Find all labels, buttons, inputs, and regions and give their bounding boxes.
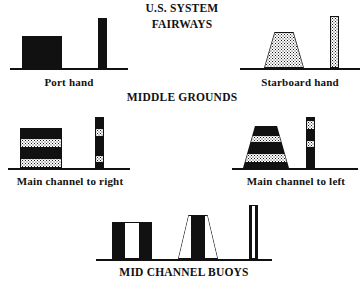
mcr-can-buoy [20,128,62,168]
buoy-diagram-page: U.S. SYSTEM FAIRWAYS Port hand Starboard… [0,0,364,285]
caption-main-channel-to-left: Main channel to left [228,175,364,187]
waterline-starboard [240,68,360,70]
page-title-line1: U.S. SYSTEM [0,2,364,14]
waterline-main-channel-to-right [8,168,130,170]
caption-port-hand: Port hand [10,76,128,88]
port-spar-buoy [98,18,107,68]
caption-starboard-hand: Starboard hand [240,76,360,88]
midchannel-nun-buoy [178,215,218,259]
starboard-nun-buoy [264,32,304,68]
section-heading-middle-grounds: MIDDLE GROUNDS [0,91,364,103]
caption-main-channel-to-right: Main channel to right [2,175,138,187]
starboard-spar-buoy [330,16,339,68]
port-can-buoy [22,36,62,68]
mcr-spar-buoy [95,117,104,168]
mcl-spar-buoy [306,117,315,168]
midchannel-can-buoy [112,222,152,259]
waterline-main-channel-to-left [232,168,358,170]
waterline-port [10,68,128,70]
page-title-line2: FAIRWAYS [0,18,364,30]
mcl-nun-buoy [243,126,289,168]
section-heading-mid-channel-buoys: MID CHANNEL BUOYS [86,266,282,278]
midchannel-spar-buoy [249,205,258,259]
waterline-mid-channel [96,259,272,261]
